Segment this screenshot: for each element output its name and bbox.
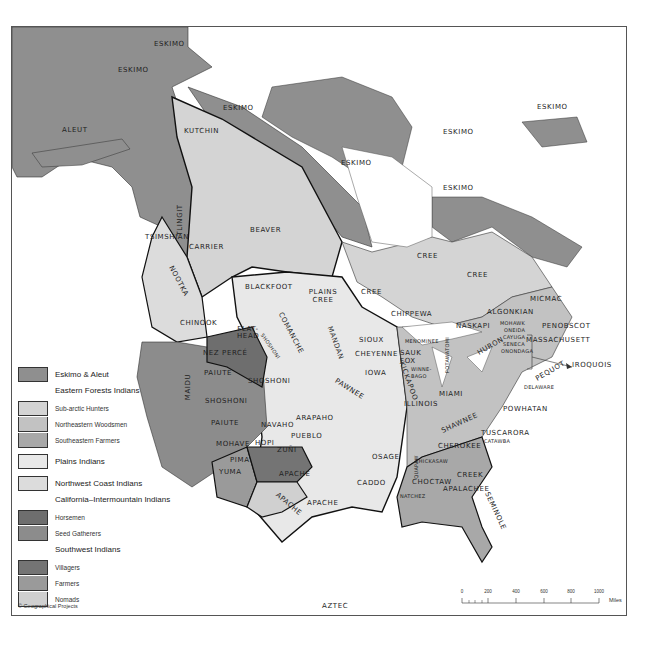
map-label-navaho: NAVAHO: [261, 421, 294, 429]
scale-tick-label: 400: [512, 589, 520, 594]
legend-item-eskimo-aleut: Eskimo & Aleut: [18, 366, 208, 382]
map-label-tlingit: TLINGIT: [176, 204, 184, 235]
map-label-mohave: MOHAVE: [216, 440, 250, 448]
map-label-flathead: FLAT-HEAD: [237, 326, 259, 340]
map-label-powhatan: POWHATAN: [503, 405, 548, 413]
map-label-cheyenne: CHEYENNE: [355, 350, 398, 358]
legend-label: Plains Indians: [55, 457, 105, 466]
map-label-iowa: IOWA: [365, 369, 386, 377]
map-label-sioux: SIOUX: [359, 336, 384, 344]
map-label-chippewa: CHIPPEWA: [391, 310, 432, 318]
map-label-blackfoot: BLACKFOOT: [245, 283, 293, 291]
legend-item-northeastern: Northeastern Woodsmen: [18, 416, 208, 432]
legend-label: Northwest Coast Indians: [55, 479, 142, 488]
map-label-cree: CREE: [467, 271, 488, 279]
legend-heading-southwest: Southwest Indians: [55, 541, 208, 559]
legend-item-horsemen: Horsemen: [18, 509, 208, 525]
map-label-osage: OSAGE: [372, 453, 400, 461]
scale-tick-label: 0: [461, 589, 464, 594]
scale-tick-label: 600: [540, 589, 548, 594]
map-label-iroquois: IROQUOIS: [572, 361, 612, 369]
legend-item-villagers: Villagers: [18, 559, 208, 575]
legend-item-subarctic: Sub-arctic Hunters: [18, 400, 208, 416]
map-label-apache: APACHE: [307, 499, 338, 507]
map-label-tsimshian: TSIMSHIAN: [145, 233, 189, 241]
region-eskimo-greenland: [522, 117, 587, 147]
map-label-kutchin: KUTCHIN: [184, 127, 219, 135]
legend-item-seed-gatherers: Seed Gatherers: [18, 525, 208, 541]
legend-heading-eastern-forests: Eastern Forests Indians: [55, 382, 208, 400]
legend-item-farmers: Farmers: [18, 575, 208, 591]
map-label-eskimo: ESKIMO: [537, 103, 568, 111]
scale-ruler: [459, 595, 604, 605]
map-label-chinook: CHINOOK: [180, 319, 217, 327]
map-label-eskimo: ESKIMO: [223, 104, 254, 112]
legend-label: Southeastern Farmers: [55, 437, 120, 444]
map-label-shoshoni: SHOSHONI: [248, 377, 291, 385]
map-label-eskimo: ESKIMO: [118, 66, 149, 74]
map-label-menominee: MENOMINEE: [405, 338, 439, 344]
map-label-mohawk: MOHAWK: [500, 320, 525, 326]
legend-swatch: [18, 401, 48, 416]
map-label-caddo: CADDO: [357, 479, 386, 487]
map-label-nez-perce: NEZ PERCÉ: [203, 349, 248, 357]
legend-item-northwest-coast: Northwest Coast Indians: [18, 475, 208, 491]
legend-label: Northeastern Woodsmen: [55, 421, 127, 428]
copyright-notice: © Geographical Projects: [18, 603, 78, 609]
map-label-winnebago: WINNE-BAGO: [411, 366, 431, 380]
legend-label: Seed Gatherers: [55, 530, 101, 537]
legend-item-plains: Plains Indians: [18, 453, 208, 469]
map-label-oneida: ONEIDA: [504, 327, 525, 333]
map-label-catawba: CATAWBA: [484, 438, 510, 444]
map-label-cree: CREE: [361, 288, 382, 296]
map-label-eskimo: ESKIMO: [154, 40, 185, 48]
legend-label: Farmers: [55, 580, 79, 587]
scale-bar: 0 200 400 600 800 1000 Miles: [459, 589, 627, 616]
legend-swatch: [18, 560, 48, 575]
map-label-arapaho: ARAPAHO: [296, 414, 334, 422]
legend-heading-california: California–Intermountain Indians: [55, 491, 208, 509]
map-label-creek: CREEK: [457, 471, 483, 479]
map-label-cherokee: CHEROKEE: [438, 442, 481, 450]
map-label-eskimo: ESKIMO: [443, 128, 474, 136]
map-legend: Eskimo & Aleut Eastern Forests Indians S…: [18, 366, 208, 607]
map-label-cree: CREE: [417, 252, 438, 260]
legend-swatch: [18, 476, 48, 491]
map-label-yuma: YUMA: [219, 468, 242, 476]
map-label-aztec: AZTEC: [322, 602, 348, 610]
scale-tick-label: 1000: [594, 589, 604, 594]
map-label-pima: PIMA: [230, 456, 250, 464]
legend-label: Horsemen: [55, 514, 85, 521]
map-label-plains-cree: PLAINS CREE: [308, 288, 338, 304]
map-label-aleut: ALEUT: [62, 126, 88, 134]
map-label-beaver: BEAVER: [250, 226, 281, 234]
map-label-massachusett: MASSACHUSETT: [526, 336, 590, 344]
map-label-cayuga: CAYUGA: [503, 334, 525, 340]
legend-label: Nomads: [55, 596, 79, 603]
map-label-eskimo: ESKIMO: [443, 184, 474, 192]
scale-tick-label: 200: [484, 589, 492, 594]
legend-swatch: [18, 526, 48, 541]
map-label-shoshoni: SHOSHONI: [205, 397, 248, 405]
map-label-hopi: HOPI: [255, 439, 274, 447]
legend-swatch: [18, 454, 48, 469]
map-label-eskimo: ESKIMO: [341, 159, 372, 167]
map-label-chickasaw: CHICKASAW: [415, 458, 448, 464]
map-label-paiute: PAIUTE: [204, 369, 232, 377]
map-label-apalachee: APALACHEE: [443, 485, 489, 493]
legend-item-southeastern: Southeastern Farmers: [18, 432, 208, 448]
map-label-onondaga: ONONDAGA: [501, 348, 533, 354]
legend-swatch: [18, 576, 48, 591]
legend-swatch: [18, 367, 48, 382]
map-label-potawatomi: POTAWATOMI: [444, 337, 450, 373]
legend-label: Villagers: [55, 564, 80, 571]
map-label-micmac: MICMAC: [530, 295, 562, 303]
map-label-miami: MIAMI: [439, 390, 463, 398]
map-label-apache: APACHE: [279, 470, 310, 478]
map-label-natchez: NATCHEZ: [400, 493, 425, 499]
map-label-algonkian: ALGONKIAN: [487, 308, 534, 316]
map-label-illinois: ILLINOIS: [404, 400, 438, 408]
legend-label: Sub-arctic Hunters: [55, 405, 109, 412]
map-label-paiute: PAIUTE: [211, 419, 239, 427]
map-label-delaware: DELAWARE: [524, 384, 554, 390]
